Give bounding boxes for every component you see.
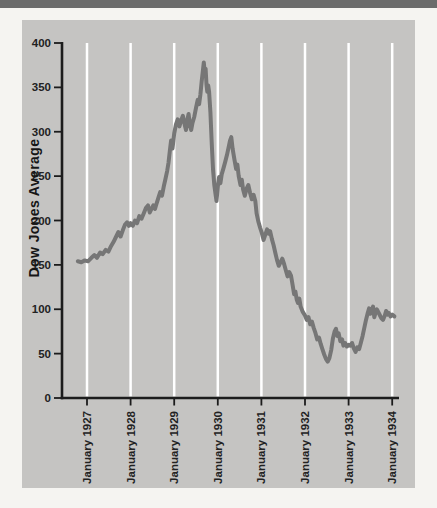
axes xyxy=(54,42,399,406)
x-tick-label-1934: January 1934 xyxy=(386,410,398,483)
x-tick-label-1927: January 1927 xyxy=(81,411,93,484)
y-tick-label-300: 300 xyxy=(32,126,51,138)
x-tick-label-1929: January 1929 xyxy=(168,411,180,484)
dow-jones-line xyxy=(78,63,395,362)
x-tick-label-1930: January 1930 xyxy=(212,411,224,484)
y-tick-label-400: 400 xyxy=(32,37,51,49)
x-tick-label-1932: January 1932 xyxy=(299,411,311,484)
x-tick-label-1928: January 1928 xyxy=(125,410,137,483)
x-tick-label-1931: January 1931 xyxy=(255,410,267,483)
dow-jones-chart-svg: 050100150200250300350400 January 1927Jan… xyxy=(22,20,415,488)
x-tick-label-1933: January 1933 xyxy=(343,411,355,484)
data-series xyxy=(78,63,395,362)
y-tick-label-0: 0 xyxy=(45,392,51,404)
y-tick-label-350: 350 xyxy=(32,81,51,93)
chart-panel: 050100150200250300350400 January 1927Jan… xyxy=(22,20,415,488)
x-tick-labels: January 1927January 1928January 1929Janu… xyxy=(81,410,398,483)
y-tick-label-50: 50 xyxy=(38,348,51,360)
top-accent-bar xyxy=(0,0,437,8)
y-tick-label-100: 100 xyxy=(32,303,51,315)
y-axis-title: Dow Jones Average xyxy=(26,139,42,278)
